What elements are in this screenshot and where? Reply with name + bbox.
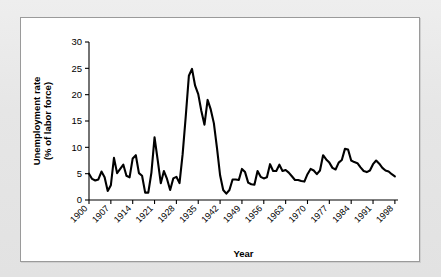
unemployment-line-chart: 0510152025301900190719141921192819351942… [21,18,421,263]
x-tick-label: 1970 [287,203,308,224]
plot-root: 0510152025301900190719141921192819351942… [31,36,398,259]
y-tick-label: 25 [71,63,82,74]
figure-panel: 0510152025301900190719141921192819351942… [20,17,420,262]
y-tick-label: 15 [71,115,82,126]
x-tick-label: 1949 [221,203,242,224]
chart-area: 0510152025301900190719141921192819351942… [21,18,421,263]
y-tick-label: 10 [71,142,82,153]
x-tick-label: 1914 [112,203,133,224]
x-axis-title: Year [233,248,253,259]
x-tick-label: 1921 [134,203,155,224]
x-tick-label: 1998 [374,203,395,224]
x-tick-label: 1956 [243,203,264,224]
y-axis-title: Unemployment rate(% of labor force) [31,77,53,166]
series-line-unemployment-rate [89,69,395,194]
y-tick-label: 20 [71,89,82,100]
x-tick-label: 1991 [352,203,373,224]
x-tick-label: 1935 [177,203,198,224]
x-tick-label: 1942 [199,203,220,224]
x-tick-label: 1963 [265,203,286,224]
x-tick-label: 1984 [330,203,351,224]
y-axis-title-line1: Unemployment rate [31,77,42,166]
x-tick-label: 1928 [156,203,177,224]
x-tick-label: 1900 [68,203,89,224]
y-axis-title-line2: (% of labor force) [42,82,53,160]
x-tick-label: 1977 [309,203,330,224]
y-tick-label: 5 [77,168,82,179]
x-tick-label: 1907 [90,203,111,224]
y-tick-label: 30 [71,36,82,47]
